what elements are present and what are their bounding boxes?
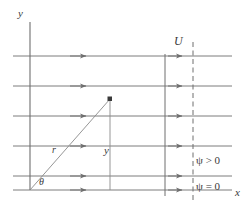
stream-function-zero-label: ψ = 0 <box>196 181 220 192</box>
x-axis-label: x <box>235 187 240 198</box>
angle-label: θ <box>39 177 44 187</box>
radius-label: r <box>52 145 56 155</box>
figure-container: y x U r y θ ψ > 0 ψ = 0 <box>0 0 250 213</box>
velocity-label: U <box>174 35 183 47</box>
stream-function-positive-label: ψ > 0 <box>196 155 220 166</box>
y-axis-label: y <box>18 8 23 19</box>
point-dot-marker <box>108 97 113 102</box>
height-label: y <box>104 145 109 156</box>
